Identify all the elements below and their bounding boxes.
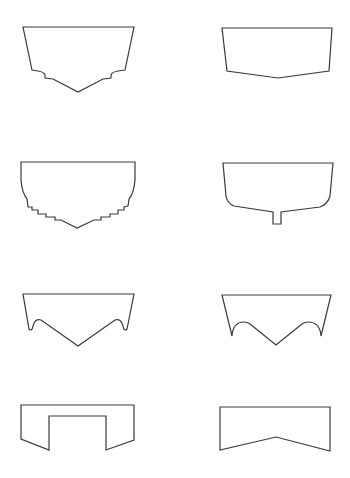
hull-profile-4 bbox=[223, 163, 333, 224]
hull-profile-3 bbox=[21, 162, 135, 228]
hull-profile-6 bbox=[222, 295, 331, 345]
hull-profile-2 bbox=[222, 28, 332, 78]
hull-profiles-diagram bbox=[0, 0, 350, 478]
hull-profile-1 bbox=[23, 27, 134, 92]
hull-profile-7 bbox=[21, 405, 134, 450]
hull-profile-8 bbox=[220, 407, 330, 451]
hull-profile-5 bbox=[23, 294, 134, 346]
